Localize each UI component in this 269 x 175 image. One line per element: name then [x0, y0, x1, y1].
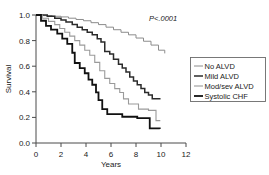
km-curve-systolic-chf	[36, 15, 160, 129]
x-tick-label: 0	[34, 150, 39, 159]
y-tick-label: 0.4	[19, 88, 31, 97]
y-tick-label: 0.8	[19, 37, 31, 46]
y-tick-label: 0.0	[19, 139, 31, 148]
legend-label-mild-alvd: Mild ALVD	[205, 72, 240, 81]
legend: No ALVDMild ALVDMod/sev ALVDSystolic CHF	[191, 58, 266, 102]
x-tick-label: 12	[182, 150, 191, 159]
y-tick-label: 0.6	[19, 62, 31, 71]
x-tick-label: 10	[157, 150, 166, 159]
y-tick-label: 0.2	[19, 113, 31, 122]
p-value-annotation: P<.0001	[149, 14, 177, 23]
y-axis-ticks: 0.00.20.40.60.81.0	[19, 11, 36, 148]
legend-label-systolic-chf: Systolic CHF	[205, 92, 249, 101]
km-curve-no-alvd	[36, 15, 165, 53]
survival-chart-figure: 0.00.20.40.60.81.0 024681012 P<.0001 Yea…	[0, 0, 269, 175]
x-tick-label: 2	[59, 150, 64, 159]
x-tick-label: 6	[109, 150, 114, 159]
km-curve-mod-sev-alvd	[36, 15, 160, 121]
x-axis-title: Years	[101, 160, 121, 169]
x-tick-label: 8	[134, 150, 139, 159]
km-curves-group	[36, 15, 165, 129]
x-tick-label: 4	[84, 150, 89, 159]
km-curve-mild-alvd	[36, 15, 160, 99]
y-axis-title: Survival	[4, 65, 13, 94]
legend-label-no-alvd: No ALVD	[205, 62, 236, 71]
chart-svg: 0.00.20.40.60.81.0 024681012 P<.0001 Yea…	[0, 0, 269, 175]
legend-label-mod-sev-alvd: Mod/sev ALVD	[205, 82, 255, 91]
y-tick-label: 1.0	[19, 11, 31, 20]
x-axis-ticks: 024681012	[34, 143, 191, 159]
